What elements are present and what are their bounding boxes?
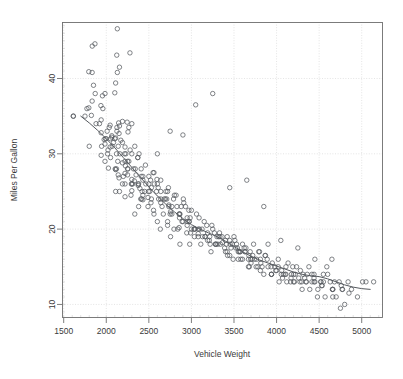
data-point (130, 121, 134, 125)
data-point (117, 176, 121, 180)
data-point (338, 306, 342, 310)
data-point (128, 148, 132, 152)
data-point (90, 99, 94, 103)
data-point (355, 295, 359, 299)
data-point (105, 129, 109, 133)
data-point (103, 142, 107, 146)
data-point (330, 257, 334, 261)
data-point (266, 242, 270, 246)
data-point (197, 216, 201, 220)
data-point (139, 167, 143, 171)
data-point (115, 70, 119, 74)
y-tick-label: 10 (47, 299, 57, 309)
data-point (240, 242, 244, 246)
data-point (168, 234, 172, 238)
data-point (126, 130, 130, 134)
data-point (325, 265, 329, 269)
data-point (296, 246, 300, 250)
data-point (89, 113, 93, 117)
data-point (161, 212, 165, 216)
data-point (346, 280, 350, 284)
x-tick-label: 4000 (267, 326, 286, 336)
data-point (279, 238, 283, 242)
data-point (129, 193, 133, 197)
data-point (316, 287, 320, 291)
data-point (262, 272, 266, 276)
data-point (123, 145, 127, 149)
plot-frame-border (63, 23, 383, 318)
data-point (251, 242, 255, 246)
data-point (265, 257, 269, 261)
data-point (108, 155, 112, 159)
data-point (277, 280, 281, 284)
data-point (130, 188, 134, 192)
minor-tick-marks (62, 26, 379, 318)
data-point (113, 81, 117, 85)
data-point (188, 242, 192, 246)
data-point (269, 272, 273, 276)
x-tick-label: 2500 (139, 326, 158, 336)
data-point (116, 173, 120, 177)
data-point (258, 268, 262, 272)
data-point (136, 204, 140, 208)
data-point (323, 295, 327, 299)
y-tick-label: 30 (47, 149, 57, 159)
data-point (313, 257, 317, 261)
data-point (133, 144, 137, 148)
data-point (71, 114, 75, 118)
data-point (315, 295, 319, 299)
data-point (307, 265, 311, 269)
data-point (210, 91, 214, 95)
x-axis-tick-labels: 15002000250030003500400045005000 (54, 326, 371, 336)
data-point (116, 159, 120, 163)
loess-smooth-curve (81, 116, 371, 289)
x-tick-label: 1500 (54, 326, 73, 336)
data-point (127, 125, 131, 129)
x-tick-label: 3000 (182, 326, 201, 336)
data-point (120, 119, 124, 123)
x-tick-label: 2000 (97, 326, 116, 336)
y-tick-label: 20 (47, 224, 57, 234)
y-axis-title: Miles Per Gallon (9, 139, 19, 202)
y-axis-ticks (57, 78, 62, 304)
data-point (231, 257, 235, 261)
data-point (300, 287, 304, 291)
x-axis-ticks (64, 318, 362, 323)
x-axis-title: Vehicle Weight (194, 349, 251, 359)
data-point (262, 204, 266, 208)
data-point (117, 65, 121, 69)
x-tick-label: 5000 (352, 326, 371, 336)
data-point (168, 129, 172, 133)
y-tick-label: 40 (47, 73, 57, 83)
data-point (298, 268, 302, 272)
data-point (178, 242, 182, 246)
data-point (115, 27, 119, 31)
data-point (347, 291, 351, 295)
data-point (115, 53, 119, 57)
data-point (325, 272, 329, 276)
x-tick-label: 4500 (310, 326, 329, 336)
data-point (123, 195, 127, 199)
data-point (175, 204, 179, 208)
data-point (106, 166, 110, 170)
data-point (209, 250, 213, 254)
data-point (143, 163, 147, 167)
y-axis-tick-labels: 10203040 (47, 73, 57, 309)
data-point (113, 91, 117, 95)
x-tick-label: 3500 (225, 326, 244, 336)
data-point (128, 51, 132, 55)
data-point (103, 159, 107, 163)
chart-canvas: 15002000250030003500400045005000 1020304… (0, 0, 403, 379)
data-point (245, 178, 249, 182)
data-point (146, 204, 150, 208)
data-point (205, 223, 209, 227)
data-point (93, 91, 97, 95)
data-point (87, 144, 91, 148)
scatter-plot-figure: 15002000250030003500400045005000 1020304… (0, 0, 403, 379)
data-point (125, 120, 129, 124)
data-point (228, 185, 232, 189)
data-point (308, 287, 312, 291)
data-point (181, 133, 185, 137)
data-point (371, 280, 375, 284)
data-point-layer (71, 27, 376, 311)
